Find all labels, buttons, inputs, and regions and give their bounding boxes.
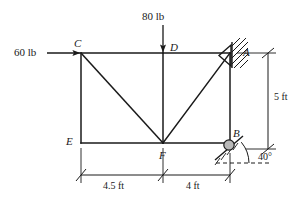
dimension-label-4-5ft: 4.5 ft [103,181,124,191]
node-label-D: D [170,42,178,53]
node-label-B: B [233,128,240,139]
node-label-E: E [66,136,73,147]
member-FA [163,53,230,143]
member-CF [81,53,163,143]
dimension-label-5ft: 5 ft [274,92,288,102]
dimension-label-4ft: 4 ft [186,181,200,191]
diagram-canvas [0,0,304,203]
node-label-F: F [159,150,166,161]
dimension-vertical-5ft [237,48,276,154]
dimension-horizontal [76,148,235,183]
roller-circle [224,140,234,150]
angle-label-40deg: 40° [258,152,272,162]
node-label-A: A [243,47,250,58]
truss-diagram: C D A E F B 60 lb 80 lb 4.5 ft 4 ft 5 ft… [0,0,304,203]
node-label-C: C [74,38,81,49]
load-label-60lb: 60 lb [14,47,36,58]
truss-members [81,53,230,143]
load-label-80lb: 80 lb [142,11,164,22]
angle-arc [241,142,249,163]
